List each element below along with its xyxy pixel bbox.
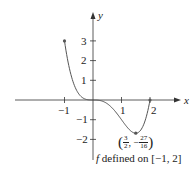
function-graph: x y −1 1 2 3 2 1 −1 −2 — [0, 0, 194, 173]
right-endpoint-marker — [148, 98, 151, 101]
y-tick-label-neg1: −1 — [76, 113, 88, 125]
x-tick-label-1: 1 — [120, 104, 126, 116]
y-tick-label-1: 1 — [81, 74, 87, 86]
domain-text: defined on [−1, 2] — [99, 152, 181, 164]
y-axis-label: y — [97, 9, 103, 21]
left-endpoint-marker — [63, 39, 66, 42]
x-axis-arrow-icon — [174, 98, 181, 103]
y-tick-label-2: 2 — [81, 54, 87, 66]
y-axis-arrow-icon — [91, 12, 96, 19]
y-tick-label-3: 3 — [81, 35, 87, 47]
y-tick-label-neg2: −2 — [76, 133, 88, 145]
x-axis-label: x — [183, 94, 189, 106]
domain-note: f defined on [−1, 2] — [96, 152, 181, 164]
x-tick-label-neg1: −1 — [58, 104, 70, 116]
x-tick-label-2: 2 — [151, 104, 157, 116]
minimum-point-label: (32, −2716) — [118, 134, 153, 151]
